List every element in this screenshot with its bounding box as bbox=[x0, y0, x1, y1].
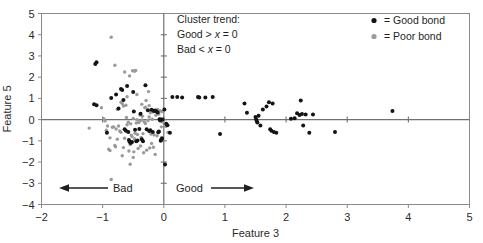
data-point-good-bond bbox=[271, 101, 275, 105]
data-point-poor-bond bbox=[139, 144, 142, 147]
data-point-poor-bond bbox=[132, 117, 135, 120]
data-point-poor-bond bbox=[144, 106, 147, 109]
x-axis-tick-label: −1 bbox=[96, 211, 109, 223]
data-point-good-bond bbox=[160, 136, 164, 140]
x-axis-tick-label: 5 bbox=[466, 211, 472, 223]
data-point-poor-bond bbox=[123, 70, 126, 73]
data-point-poor-bond bbox=[122, 146, 125, 149]
data-point-good-bond bbox=[125, 84, 129, 88]
data-point-poor-bond bbox=[147, 104, 150, 107]
data-point-good-bond bbox=[163, 163, 167, 167]
data-point-good-bond bbox=[157, 130, 161, 134]
data-point-poor-bond bbox=[144, 122, 147, 125]
data-point-good-bond bbox=[311, 113, 315, 117]
data-point-good-bond bbox=[390, 109, 394, 113]
x-axis-title: Feature 3 bbox=[232, 227, 279, 239]
data-point-poor-bond bbox=[144, 99, 147, 102]
data-point-good-bond bbox=[132, 110, 136, 114]
legend-marker-good-bond-icon bbox=[371, 18, 376, 23]
data-point-poor-bond bbox=[100, 106, 103, 109]
data-point-poor-bond bbox=[147, 90, 150, 93]
cluster-trend-annotation: Cluster trend: Good > x = 0 Bad < x = 0 bbox=[177, 13, 240, 55]
cluster-trend-line3-prefix: Bad < bbox=[177, 43, 208, 55]
data-point-poor-bond bbox=[141, 132, 144, 135]
legend-marker-poor-bond-icon bbox=[371, 34, 376, 39]
data-point-poor-bond bbox=[113, 64, 116, 67]
cluster-trend-line3: Bad < x = 0 bbox=[177, 43, 231, 55]
data-point-poor-bond bbox=[110, 36, 113, 39]
y-axis-tick-label: 1 bbox=[28, 92, 34, 104]
data-point-poor-bond bbox=[134, 69, 137, 72]
y-axis-tick-label: −2 bbox=[22, 156, 35, 168]
data-point-poor-bond bbox=[128, 162, 131, 165]
data-point-poor-bond bbox=[145, 148, 148, 151]
data-point-poor-bond bbox=[154, 153, 157, 156]
data-point-good-bond bbox=[130, 140, 134, 144]
y-axis-tick-label: 2 bbox=[28, 71, 34, 83]
y-axis-tick-label: 3 bbox=[28, 50, 34, 62]
data-point-good-bond bbox=[109, 96, 113, 100]
y-axis-tick-label: −1 bbox=[22, 135, 35, 147]
x-axis-tick-label: 3 bbox=[344, 211, 350, 223]
data-point-good-bond bbox=[267, 100, 271, 104]
data-point-good-bond bbox=[261, 107, 265, 111]
data-point-good-bond bbox=[197, 96, 201, 100]
legend-label-good-bond: = Good bond bbox=[384, 14, 445, 26]
cluster-trend-line2-prefix: Good > bbox=[177, 28, 215, 40]
data-point-good-bond bbox=[300, 112, 304, 116]
data-point-poor-bond bbox=[150, 117, 153, 120]
x-axis-tick-label: 0 bbox=[161, 211, 167, 223]
data-point-poor-bond bbox=[125, 116, 128, 119]
cluster-trend-line2: Good > x = 0 bbox=[177, 28, 238, 40]
data-point-good-bond bbox=[257, 114, 261, 118]
data-point-good-bond bbox=[141, 139, 145, 143]
data-point-poor-bond bbox=[123, 137, 126, 140]
cluster-trend-line3-suffix: = 0 bbox=[213, 43, 231, 55]
y-axis-tick-label: 5 bbox=[28, 8, 34, 20]
y-axis-title: Feature 5 bbox=[1, 85, 13, 132]
data-point-poor-bond bbox=[125, 95, 128, 98]
data-point-poor-bond bbox=[114, 127, 117, 130]
legend-label-poor-bond: = Poor bond bbox=[384, 30, 442, 42]
x-axis-tick-label: 2 bbox=[283, 211, 289, 223]
data-point-good-bond bbox=[137, 127, 141, 131]
x-axis-tick-label: 4 bbox=[405, 211, 411, 223]
data-point-poor-bond bbox=[136, 147, 139, 150]
data-point-good-bond bbox=[245, 111, 249, 115]
data-point-poor-bond bbox=[106, 124, 109, 127]
y-axis-tick-label: 0 bbox=[28, 114, 34, 126]
data-point-good-bond bbox=[333, 130, 337, 134]
data-point-good-bond bbox=[299, 99, 303, 103]
data-point-poor-bond bbox=[128, 74, 131, 77]
data-point-poor-bond bbox=[119, 131, 122, 134]
data-point-good-bond bbox=[211, 95, 215, 99]
y-axis-tick-label: −3 bbox=[22, 177, 35, 189]
data-point-good-bond bbox=[203, 96, 207, 100]
data-point-poor-bond bbox=[122, 104, 125, 107]
data-point-good-bond bbox=[131, 90, 135, 94]
data-point-good-bond bbox=[242, 101, 246, 105]
data-point-poor-bond bbox=[117, 124, 120, 127]
data-point-poor-bond bbox=[110, 178, 113, 181]
data-point-good-bond bbox=[156, 110, 160, 114]
data-point-good-bond bbox=[265, 104, 269, 108]
data-point-good-bond bbox=[139, 112, 143, 116]
data-point-good-bond bbox=[304, 113, 308, 117]
data-point-good-bond bbox=[307, 131, 311, 135]
data-point-poor-bond bbox=[87, 126, 90, 129]
data-point-poor-bond bbox=[136, 133, 139, 136]
data-point-poor-bond bbox=[148, 146, 151, 149]
data-point-good-bond bbox=[117, 107, 121, 111]
data-point-poor-bond bbox=[155, 134, 158, 137]
data-point-good-bond bbox=[151, 130, 155, 134]
data-point-good-bond bbox=[161, 118, 165, 122]
data-point-good-bond bbox=[218, 132, 222, 136]
data-point-poor-bond bbox=[152, 146, 155, 149]
bad-region-label: Bad bbox=[113, 182, 133, 194]
data-point-poor-bond bbox=[132, 156, 135, 159]
good-region-label: Good bbox=[176, 182, 203, 194]
data-point-good-bond bbox=[175, 95, 179, 99]
data-point-good-bond bbox=[274, 131, 278, 135]
data-point-good-bond bbox=[258, 124, 262, 128]
data-point-poor-bond bbox=[135, 93, 138, 96]
